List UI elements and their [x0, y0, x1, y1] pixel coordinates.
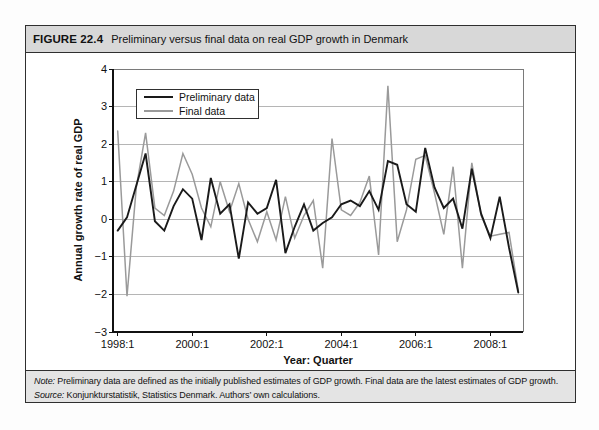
x-axis-title: Year: Quarter [258, 354, 378, 366]
legend-swatch-preliminary-line [144, 96, 173, 98]
source-line: Source: Konjunkturstatistik, Statistics … [34, 388, 567, 402]
y-tick-label: −3 [69, 326, 107, 339]
x-tick-label: 2000:1 [167, 338, 217, 351]
y-tick-label: 0 [69, 213, 107, 226]
legend: Preliminary data Final data [136, 89, 259, 119]
y-tick-label: 1 [69, 175, 107, 188]
x-tick-label: 1998:1 [93, 338, 143, 351]
figure-number: FIGURE 22.4 [33, 33, 103, 45]
x-tick-label: 2006:1 [391, 338, 441, 351]
chart-area: Annual growth rate of real GDP Year: Qua… [26, 53, 575, 369]
legend-label-final: Final data [179, 106, 225, 117]
x-tick-label: 2004:1 [316, 338, 366, 351]
figure-notes: Note: Preliminary data are defined as th… [26, 370, 575, 402]
y-tick-label: 3 [69, 100, 107, 113]
y-tick-label: 2 [69, 138, 107, 151]
figure-box: FIGURE 22.4 Preliminary versus final dat… [25, 25, 576, 403]
legend-swatch-final-line [144, 110, 173, 112]
note-text: Preliminary data are defined as the init… [55, 376, 558, 386]
y-tick-label: −2 [69, 288, 107, 301]
y-tick-label: −1 [69, 250, 107, 263]
x-tick-label: 2002:1 [242, 338, 292, 351]
source-label: Source: [34, 390, 64, 400]
y-axis-title: Annual growth rate of real GDP [72, 87, 86, 313]
source-text: Konjunkturstatistik, Statistics Denmark.… [64, 390, 320, 400]
note-label: Note: [34, 376, 55, 386]
x-tick-label: 2008:1 [465, 338, 515, 351]
figure-title: Preliminary versus final data on real GD… [111, 33, 408, 45]
legend-label-preliminary: Preliminary data [179, 92, 255, 103]
note-line: Note: Preliminary data are defined as th… [34, 374, 567, 388]
y-tick-label: 4 [69, 63, 107, 76]
figure-header: FIGURE 22.4 Preliminary versus final dat… [26, 26, 575, 53]
legend-item-preliminary: Preliminary data [144, 92, 258, 103]
legend-item-final: Final data [144, 106, 258, 117]
